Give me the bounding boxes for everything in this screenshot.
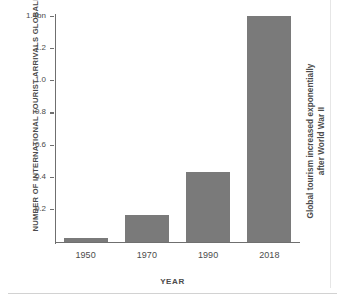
y-tick-mark bbox=[50, 145, 54, 146]
bar bbox=[247, 16, 291, 242]
annotation-line-2: after World War II bbox=[316, 51, 327, 231]
y-tick-label: 0.6 bbox=[0, 140, 46, 149]
bars-group bbox=[55, 16, 300, 242]
x-tick-label: 1990 bbox=[178, 250, 238, 260]
bar bbox=[125, 215, 169, 242]
x-axis-title: YEAR bbox=[0, 277, 345, 286]
bar-chart-figure: NUMBER OF INTERNATIONAL TOURIST ARRIVALS… bbox=[0, 0, 345, 304]
y-tick-label: 0.4 bbox=[0, 172, 46, 181]
y-tick-label: 1.0 bbox=[0, 75, 46, 84]
annotation-line-1: Global tourism increased exponentially bbox=[305, 51, 316, 231]
y-tick-mark bbox=[50, 177, 54, 178]
bar bbox=[186, 172, 230, 242]
y-tick-mark bbox=[50, 209, 54, 210]
y-tick-mark bbox=[50, 112, 54, 113]
x-tick-label: 1950 bbox=[56, 250, 116, 260]
y-tick-mark bbox=[50, 48, 54, 49]
y-tick-label: 0.8 bbox=[0, 107, 46, 116]
y-tick-mark bbox=[50, 80, 54, 81]
y-tick-mark bbox=[50, 16, 54, 17]
page-footer-divider bbox=[8, 293, 337, 294]
x-tick-label: 2018 bbox=[239, 250, 299, 260]
y-tick-label: 1.2 bbox=[0, 43, 46, 52]
x-tick-label: 1970 bbox=[117, 250, 177, 260]
y-axis-title: NUMBER OF INTERNATIONAL TOURIST ARRIVALS… bbox=[31, 2, 40, 232]
y-tick-label: 1.4bn bbox=[0, 11, 46, 20]
page-right-divider bbox=[330, 0, 331, 288]
bar bbox=[64, 238, 108, 242]
annotation-note: Global tourism increased exponentially a… bbox=[305, 51, 327, 231]
y-tick-label: 0.2 bbox=[0, 204, 46, 213]
